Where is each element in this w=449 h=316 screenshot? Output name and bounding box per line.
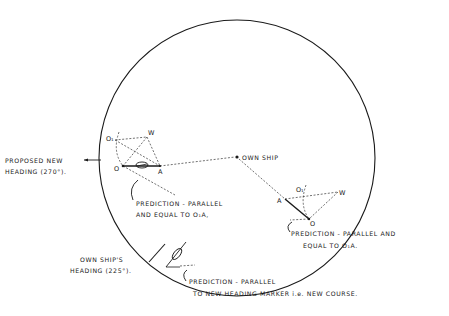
own-ship-marker [235,155,238,158]
right-oa-vector [285,199,309,219]
left-relative-motion-line [160,157,235,166]
left-o1-w-line [115,137,147,140]
own-heading-label-1: OWN SHIP'S [80,256,123,263]
right-a-label: A [277,197,282,205]
left-prediction-label-2: AND EQUAL TO O₁A, [136,211,209,218]
left-o-label: O [114,165,119,173]
left-arc [116,132,123,166]
bottom-prediction-pointer [184,270,187,281]
right-prediction-line [290,219,309,220]
left-w-label: W [148,129,155,137]
bottom-target-plot [166,242,195,267]
bottom-prediction-line [180,265,195,266]
right-prediction-label-1: PREDICTION - PARALLEL AND [291,230,396,237]
own-heading-marker [149,244,165,262]
bottom-prediction-label-1: PREDICTION - PARALLEL [189,278,276,285]
left-o1-a-line [115,140,160,166]
right-o-label: O [310,220,315,228]
own-ship-label: OWN SHIP [242,154,279,161]
left-a-label: A [158,168,163,176]
right-prediction-label-2: EQUAL TO O₁A. [303,242,358,249]
right-arc [303,185,309,219]
left-w-a-line [147,137,160,166]
bottom-target-track [166,242,186,267]
left-target-plot: O₁ W O A [106,129,235,195]
own-heading-label-2: HEADING (225°). [70,267,131,274]
proposed-heading-arrowhead [84,158,88,161]
left-a-point [159,165,161,167]
proposed-heading-label-1: PROPOSED NEW [5,157,63,164]
left-prediction-label-1: PREDICTION - PARALLEL [136,200,223,207]
left-o1-label: O₁ [106,135,114,143]
left-prediction-line [123,166,175,195]
radar-diagram: OWN SHIP O₁ W O A PROPOSED NEW HEADING (… [0,0,449,316]
bottom-target-ellipse [170,247,183,261]
right-a-w-line [285,192,338,199]
right-w-label: W [339,189,346,197]
right-o1-label: O₁ [296,186,304,194]
proposed-heading-label-2: HEADING (270°). [5,168,66,175]
left-o-point [122,165,125,168]
right-relative-motion-line [239,159,285,199]
bottom-prediction-label-2: TO NEW HEADING MARKER i.e. NEW COURSE. [192,290,358,297]
right-target-plot: O₁ W O A [239,159,346,228]
right-w-o-line [309,192,338,219]
left-prediction-pointer [131,180,138,200]
